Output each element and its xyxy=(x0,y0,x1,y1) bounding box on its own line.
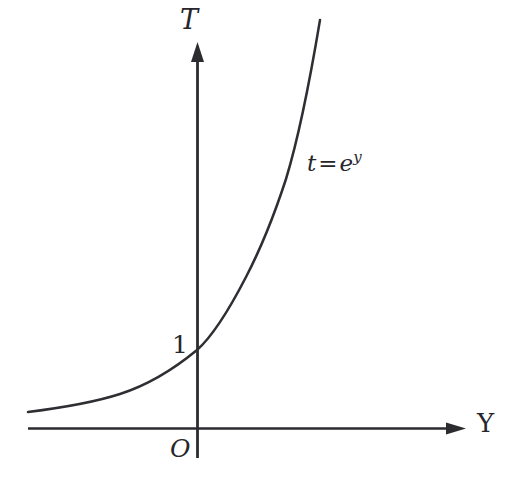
horizontal-axis-label: Y xyxy=(477,410,494,436)
vertical-axis xyxy=(191,42,204,458)
vertical-axis-arrowhead xyxy=(191,42,204,62)
origin-label: O xyxy=(170,436,191,461)
curve-equation-exponent: y xyxy=(353,148,361,166)
curve-equation-lhs: t xyxy=(307,150,316,176)
exponential-curve-figure: T Y 1 O t=ey xyxy=(0,0,510,478)
vertical-axis-label: T xyxy=(180,6,198,33)
y-intercept-tick-label: 1 xyxy=(172,332,188,357)
curve-equation-label: t=ey xyxy=(307,150,362,175)
curve-equation-operator: = xyxy=(316,150,339,176)
horizontal-axis-arrowhead xyxy=(446,423,466,435)
curve-equation-base: e xyxy=(340,150,354,176)
plot-canvas xyxy=(0,0,510,478)
horizontal-axis xyxy=(28,423,466,435)
